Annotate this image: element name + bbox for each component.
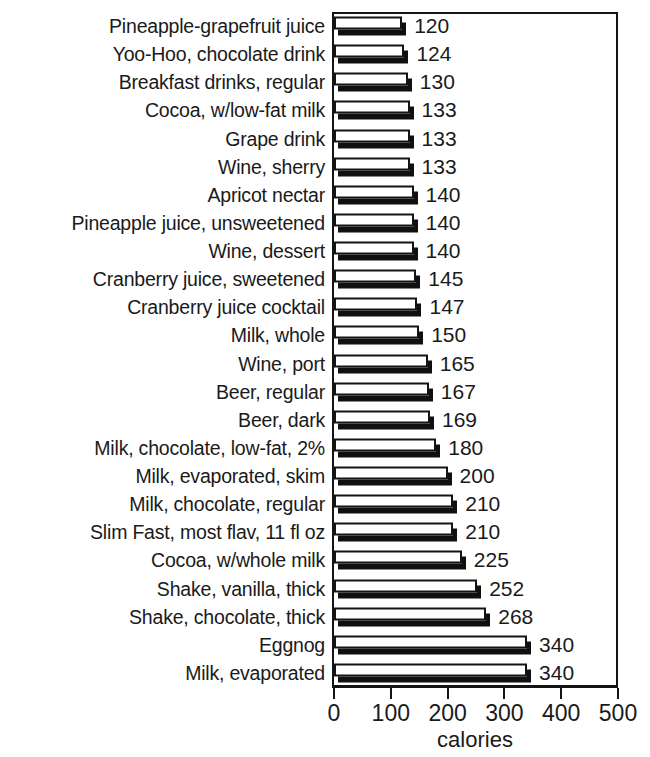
x-axis-tick bbox=[390, 688, 392, 699]
bar-face bbox=[334, 410, 430, 423]
category-label: Cranberry juice, sweetened bbox=[93, 269, 325, 289]
bar-face bbox=[334, 185, 414, 198]
bar-face bbox=[334, 467, 448, 480]
bar-face bbox=[334, 298, 417, 311]
category-label: Beer, dark bbox=[238, 409, 325, 429]
bar-row: Cocoa, w/low-fat milk133 bbox=[0, 96, 650, 124]
bar bbox=[334, 73, 414, 92]
category-label: Wine, dessert bbox=[208, 241, 325, 261]
x-axis-title: calories bbox=[332, 727, 618, 753]
bar-row: Pineapple-grapefruit juice120 bbox=[0, 12, 650, 40]
bar-row: Beer, regular167 bbox=[0, 378, 650, 406]
category-label: Yoo-Hoo, chocolate drink bbox=[113, 44, 325, 64]
bar bbox=[334, 410, 436, 429]
bar bbox=[334, 382, 435, 401]
bar-row: Shake, chocolate, thick268 bbox=[0, 603, 650, 631]
bar bbox=[334, 607, 492, 626]
bar-value-label: 133 bbox=[422, 155, 457, 176]
bar-value-label: 145 bbox=[428, 268, 463, 289]
bar-row: Shake, vanilla, thick252 bbox=[0, 575, 650, 603]
bar-value-label: 180 bbox=[448, 437, 483, 458]
bar-row: Pineapple juice, unsweetened140 bbox=[0, 209, 650, 237]
bar-value-label: 268 bbox=[498, 605, 533, 626]
bar bbox=[334, 298, 423, 317]
bar-face bbox=[334, 579, 477, 592]
bar-row: Milk, evaporated340 bbox=[0, 659, 650, 687]
category-label: Milk, evaporated bbox=[185, 663, 325, 683]
bar bbox=[334, 551, 468, 570]
bar-face bbox=[334, 382, 429, 395]
bar-value-label: 252 bbox=[489, 577, 524, 598]
category-label: Apricot nectar bbox=[207, 184, 325, 204]
x-axis-tick-label: 500 bbox=[599, 700, 637, 726]
bar-value-label: 120 bbox=[414, 15, 449, 36]
x-axis-tick bbox=[617, 688, 619, 699]
bar-row: Wine, sherry133 bbox=[0, 153, 650, 181]
bar bbox=[334, 663, 533, 682]
bar bbox=[334, 467, 454, 486]
bar bbox=[334, 157, 416, 176]
bar-row: Cocoa, w/whole milk225 bbox=[0, 546, 650, 574]
calorie-bar-chart: Pineapple-grapefruit juice120Yoo-Hoo, ch… bbox=[0, 0, 650, 757]
bar-face bbox=[334, 523, 453, 536]
category-label: Slim Fast, most flav, 11 fl oz bbox=[90, 522, 325, 542]
category-label: Shake, chocolate, thick bbox=[129, 606, 325, 626]
bar-row: Breakfast drinks, regular130 bbox=[0, 68, 650, 96]
bar-row: Wine, port165 bbox=[0, 350, 650, 378]
bar-face bbox=[334, 17, 402, 30]
category-label: Wine, port bbox=[238, 353, 325, 373]
bar-face bbox=[334, 438, 436, 451]
category-label: Cocoa, w/whole milk bbox=[151, 550, 325, 570]
bar-face bbox=[334, 495, 453, 508]
bar-rows: Pineapple-grapefruit juice120Yoo-Hoo, ch… bbox=[0, 12, 650, 687]
bar-face bbox=[334, 45, 404, 58]
category-label: Milk, whole bbox=[231, 325, 325, 345]
bar-face bbox=[334, 157, 410, 170]
category-label: Eggnog bbox=[259, 634, 325, 654]
category-label: Breakfast drinks, regular bbox=[119, 72, 325, 92]
bar-value-label: 130 bbox=[420, 71, 455, 92]
bar bbox=[334, 45, 410, 64]
bar-row: Beer, dark169 bbox=[0, 406, 650, 434]
bar-face bbox=[334, 101, 410, 114]
bar bbox=[334, 270, 422, 289]
bar-value-label: 165 bbox=[440, 352, 475, 373]
bar-value-label: 140 bbox=[426, 240, 461, 261]
category-label: Pineapple-grapefruit juice bbox=[109, 16, 325, 36]
bar-face bbox=[334, 129, 410, 142]
bar-value-label: 210 bbox=[465, 521, 500, 542]
bar-row: Milk, evaporated, skim200 bbox=[0, 462, 650, 490]
bar-face bbox=[334, 607, 486, 620]
bar-value-label: 169 bbox=[442, 408, 477, 429]
bar-row: Yoo-Hoo, chocolate drink124 bbox=[0, 40, 650, 68]
x-axis-tick bbox=[503, 688, 505, 699]
bar bbox=[334, 185, 420, 204]
bar-value-label: 340 bbox=[539, 633, 574, 654]
bar-value-label: 340 bbox=[539, 662, 574, 683]
bar-face bbox=[334, 73, 408, 86]
bar-face bbox=[334, 663, 527, 676]
bar-row: Apricot nectar140 bbox=[0, 181, 650, 209]
category-label: Shake, vanilla, thick bbox=[157, 578, 325, 598]
x-axis-tick-label: 400 bbox=[542, 700, 580, 726]
bar-value-label: 200 bbox=[460, 465, 495, 486]
bar-face bbox=[334, 242, 414, 255]
bar-face bbox=[334, 635, 527, 648]
category-label: Cranberry juice cocktail bbox=[127, 297, 325, 317]
bar bbox=[334, 101, 416, 120]
category-label: Milk, chocolate, regular bbox=[129, 494, 325, 514]
bar-value-label: 167 bbox=[441, 380, 476, 401]
bar-face bbox=[334, 270, 416, 283]
bar bbox=[334, 17, 408, 36]
x-axis-tick bbox=[560, 688, 562, 699]
x-axis-tick-label: 0 bbox=[328, 700, 341, 726]
bar bbox=[334, 129, 416, 148]
bar-face bbox=[334, 213, 414, 226]
category-label: Pineapple juice, unsweetened bbox=[71, 213, 325, 233]
bar bbox=[334, 242, 420, 261]
bar bbox=[334, 438, 442, 457]
x-axis-line bbox=[332, 685, 618, 688]
bar bbox=[334, 354, 434, 373]
category-label: Beer, regular bbox=[216, 381, 325, 401]
category-label: Milk, evaporated, skim bbox=[135, 466, 325, 486]
